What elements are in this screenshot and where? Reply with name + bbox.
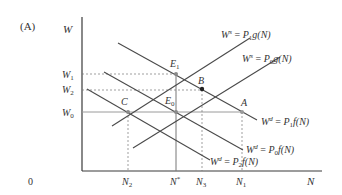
y-tick-w1: W1 (62, 69, 74, 82)
point-b (200, 87, 204, 91)
label-demand-p2: Wd = P2f(N) (210, 155, 259, 169)
origin-label: 0 (28, 176, 33, 187)
demand-curve-p2 (87, 89, 210, 160)
supply-curve-p0 (133, 57, 280, 148)
label-c: C (121, 96, 128, 107)
panel-label: (A) (20, 20, 36, 33)
point-e0 (174, 110, 178, 114)
point-e1 (174, 72, 178, 76)
y-axis-label: W (63, 23, 73, 35)
x-tick-n2: N2 (121, 176, 133, 189)
label-demand-p0: Wd = P0f(N) (246, 143, 295, 157)
y-tick-w0: W0 (62, 107, 74, 120)
label-e1: E1 (169, 58, 180, 71)
label-supply-p0: Ws = P0g(N) (242, 52, 292, 66)
x-tick-n3: N3 (195, 176, 207, 189)
x-tick-nstar: N* (169, 175, 181, 187)
y-tick-w2: W2 (62, 84, 74, 97)
labor-market-diagram: (A) W N 0 W1 W2 W0 N2 N* N3 N1 E1 B E0 A… (0, 0, 342, 195)
point-a (240, 110, 244, 114)
label-a: A (240, 97, 248, 108)
x-tick-n1: N1 (235, 176, 247, 189)
point-c (126, 110, 130, 114)
label-demand-p1: Wd = P1f(N) (261, 115, 310, 129)
label-b: B (198, 75, 204, 86)
x-axis-label: N (306, 175, 315, 187)
label-supply-p1: Ws = P1g(N) (221, 28, 271, 42)
